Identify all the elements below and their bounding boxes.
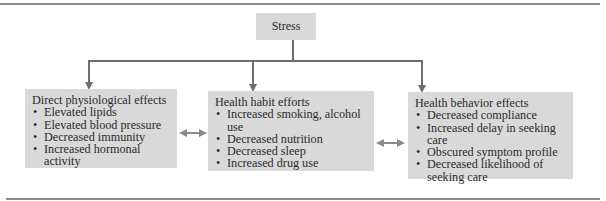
- list-item: Increased drug use: [215, 157, 368, 169]
- list-item: Decreased likelihood of seeking care: [415, 158, 567, 183]
- double-arrow-1-2: [179, 129, 207, 137]
- list-item: Increased hormonal activity: [32, 143, 171, 168]
- list-item: Decreased compliance: [415, 109, 567, 121]
- health-behavior-box: Health behavior effects Decreased compli…: [408, 92, 573, 179]
- double-arrow-2-3: [376, 139, 405, 147]
- list-item: Increased smoking, alcohol use: [215, 108, 368, 133]
- stress-label: Stress: [272, 19, 301, 34]
- list-item: Increased delay in seeking care: [415, 122, 567, 147]
- physiological-effects-box: Direct physiological effects Elevated li…: [25, 89, 177, 168]
- stress-box: Stress: [256, 13, 316, 40]
- list-item: Elevated lipids: [32, 106, 171, 118]
- health-habit-box: Health habit efforts Increased smoking, …: [208, 91, 374, 171]
